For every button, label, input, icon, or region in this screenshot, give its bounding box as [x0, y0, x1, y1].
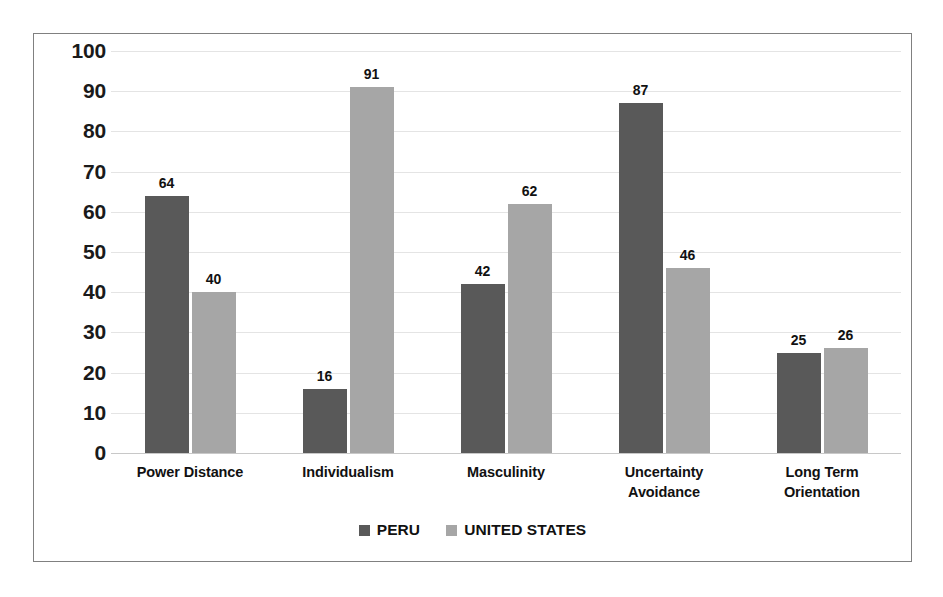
y-axis-tick-label: 70: [83, 160, 106, 184]
bar[interactable]: [461, 284, 505, 453]
legend-swatch-icon: [446, 525, 457, 536]
bar-group: 4262: [461, 51, 552, 453]
bar[interactable]: [350, 87, 394, 453]
bar-value-label: 91: [350, 66, 394, 82]
chart-frame: 1009080706050403020100 64401691426287462…: [33, 33, 912, 562]
bar[interactable]: [619, 103, 663, 453]
bar[interactable]: [666, 268, 710, 453]
bar-value-label: 64: [145, 175, 189, 191]
category-label-line: Avoidance: [584, 482, 744, 502]
bar[interactable]: [192, 292, 236, 453]
bar[interactable]: [145, 196, 189, 453]
y-axis-tick-label: 60: [83, 200, 106, 224]
y-axis-tick-label: 100: [72, 39, 106, 63]
x-axis-category-labels: Power DistanceIndividualismMasculinityUn…: [111, 462, 901, 524]
y-axis: 1009080706050403020100: [34, 51, 106, 453]
plot-area: 64401691426287462526: [111, 51, 901, 453]
category-label: Long TermOrientation: [742, 462, 902, 502]
category-label: Power Distance: [110, 462, 270, 482]
bar[interactable]: [303, 389, 347, 453]
y-axis-tick-label: 80: [83, 119, 106, 143]
category-label-line: Power Distance: [110, 462, 270, 482]
y-axis-tick-label: 0: [95, 441, 106, 465]
chart-legend: PERUUNITED STATES: [34, 521, 911, 539]
bar[interactable]: [824, 348, 868, 453]
category-label: Masculinity: [426, 462, 586, 482]
bar-value-label: 26: [824, 327, 868, 343]
y-axis-tick-label: 50: [83, 240, 106, 264]
bar-value-label: 25: [777, 332, 821, 348]
category-label-line: Individualism: [268, 462, 428, 482]
bar-group: 1691: [303, 51, 394, 453]
bar[interactable]: [508, 204, 552, 453]
category-label-line: Uncertainty: [584, 462, 744, 482]
bar-group: 8746: [619, 51, 710, 453]
legend-label: UNITED STATES: [464, 521, 586, 539]
bar-group: 2526: [777, 51, 868, 453]
y-axis-tick-label: 90: [83, 79, 106, 103]
bar[interactable]: [777, 353, 821, 454]
y-axis-tick-label: 20: [83, 361, 106, 385]
y-axis-tick-label: 10: [83, 401, 106, 425]
bar-value-label: 87: [619, 82, 663, 98]
category-label-line: Orientation: [742, 482, 902, 502]
bar-value-label: 42: [461, 263, 505, 279]
bar-value-label: 40: [192, 271, 236, 287]
legend-swatch-icon: [359, 525, 370, 536]
bar-value-label: 46: [666, 247, 710, 263]
category-label: Individualism: [268, 462, 428, 482]
bar-group: 6440: [145, 51, 236, 453]
bar-value-label: 62: [508, 183, 552, 199]
legend-item[interactable]: UNITED STATES: [446, 521, 586, 539]
gridline-0: [111, 453, 901, 454]
bar-value-label: 16: [303, 368, 347, 384]
legend-item[interactable]: PERU: [359, 521, 420, 539]
y-axis-tick-label: 30: [83, 320, 106, 344]
y-axis-tick-label: 40: [83, 280, 106, 304]
legend-label: PERU: [377, 521, 420, 539]
category-label-line: Masculinity: [426, 462, 586, 482]
category-label-line: Long Term: [742, 462, 902, 482]
category-label: UncertaintyAvoidance: [584, 462, 744, 502]
